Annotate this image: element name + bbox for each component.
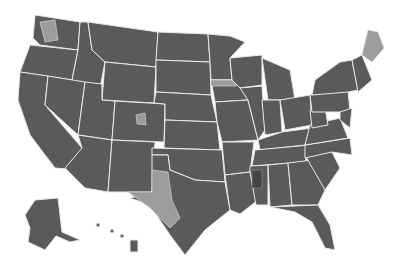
state-indiana[interactable] [262, 100, 282, 135]
state-arkansas[interactable] [222, 142, 254, 175]
state-maine[interactable] [362, 30, 384, 62]
state-new-york[interactable] [312, 60, 358, 95]
district-ms-dark[interactable] [252, 170, 262, 188]
state-ohio[interactable] [280, 95, 312, 130]
us-district-map [0, 0, 404, 271]
state-north-dakota[interactable] [156, 32, 210, 62]
district-co-highlight[interactable] [136, 113, 146, 125]
state-florida[interactable] [270, 205, 335, 250]
state-wyoming[interactable] [102, 62, 156, 103]
state-kansas[interactable] [164, 120, 220, 150]
state-michigan[interactable] [262, 58, 295, 100]
state-south-dakota[interactable] [156, 60, 211, 95]
inset-alaska[interactable] [25, 198, 80, 250]
state-new-mexico[interactable] [108, 140, 155, 192]
state-wisconsin[interactable] [230, 55, 262, 88]
inset-hawaii[interactable] [96, 223, 138, 252]
